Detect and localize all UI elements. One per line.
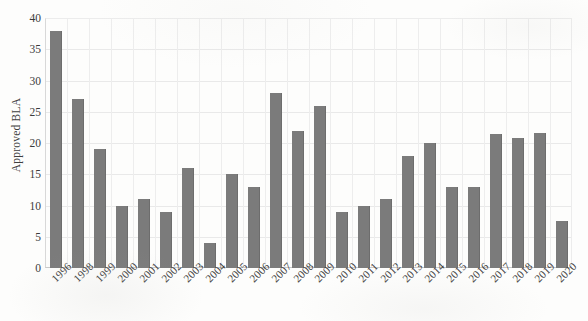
bar-2006[interactable] [248,187,260,268]
bar-2011[interactable] [358,206,370,269]
bar-2009[interactable] [314,106,326,269]
bar-2000[interactable] [116,206,128,269]
y-axis-tick-label: 10 [5,200,45,212]
bar-2003[interactable] [182,168,194,268]
bar-chart: Approved BLA 0510152025303540 1996199819… [0,0,588,321]
y-axis-tick-label: 0 [5,262,45,274]
bar-1996[interactable] [50,31,62,269]
bar-2010[interactable] [336,212,348,268]
bar-2019[interactable] [534,133,546,268]
bar-1999[interactable] [94,149,106,268]
bar-1998[interactable] [72,99,84,268]
bar-2018[interactable] [512,138,524,268]
y-axis-tick-label: 40 [5,12,45,24]
bar-2001[interactable] [138,199,150,268]
bar-2007[interactable] [270,93,282,268]
plot-area [45,18,572,268]
y-axis-tick-label: 30 [5,75,45,87]
bar-2020[interactable] [556,221,568,269]
bar-2014[interactable] [424,143,436,268]
bar-2002[interactable] [160,212,172,268]
bar-2012[interactable] [380,199,392,268]
x-axis-tick-labels: 1996199819992000200120022003200420052006… [45,268,572,321]
y-axis-tick-label: 35 [5,43,45,55]
y-axis-tick-label: 20 [5,137,45,149]
bar-2008[interactable] [292,131,304,269]
y-axis-tick-labels: 0510152025303540 [0,18,45,268]
bar-2017[interactable] [490,134,502,268]
bar-2005[interactable] [226,174,238,268]
bar-2016[interactable] [468,187,480,268]
bar-2013[interactable] [402,156,414,269]
y-axis-tick-label: 5 [5,231,45,243]
bar-2015[interactable] [446,187,458,268]
y-axis-tick-label: 15 [5,168,45,180]
y-axis-tick-label: 25 [5,106,45,118]
bars-layer [45,18,572,268]
